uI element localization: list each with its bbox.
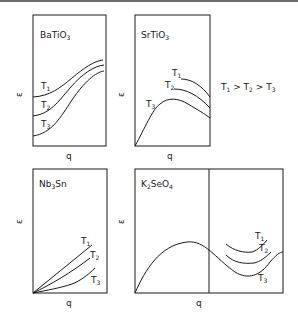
x-axis-label: q: [66, 298, 72, 308]
label-t3: T3: [257, 273, 268, 284]
panel-title: K2SeO4: [141, 179, 173, 190]
x-axis-label: q: [196, 298, 202, 308]
curve-t2: [33, 258, 90, 293]
y-axis-label: ε: [14, 219, 24, 224]
label-t3: T3: [90, 275, 101, 286]
label-t2: T2: [89, 250, 100, 261]
x-axis-label: q: [66, 151, 72, 161]
panel-srtio3: SrTiO3 T1 T2 T3 ε q: [116, 15, 210, 161]
y-axis-label: ε: [116, 92, 126, 97]
curve-t3: [33, 268, 95, 293]
curve-t2: [174, 89, 210, 108]
label-t3: T3: [145, 99, 156, 110]
y-axis-label: ε: [14, 92, 24, 97]
curve-t1: [33, 60, 103, 97]
label-t1: T1: [171, 68, 182, 79]
panel-nb3sn: Nb3Sn T1 T2 T3 ε q: [14, 169, 107, 308]
label-t2: T2: [164, 80, 175, 91]
panel-title: Nb3Sn: [39, 179, 67, 190]
phonon-dispersion-diagram: BaTiO3 T1 T2 T3 ε q SrTiO3 T1 T2 T3 ε q …: [0, 0, 298, 319]
curve-t1: [33, 245, 92, 293]
label-t3: T3: [40, 119, 51, 130]
panel-title: BaTiO3: [40, 30, 71, 41]
label-t1: T1: [254, 231, 265, 242]
label-t2: T2: [40, 100, 51, 111]
label-t2: T2: [258, 243, 269, 254]
y-axis-label: ε: [116, 219, 126, 224]
label-t1: T1: [80, 236, 91, 247]
panel-title: SrTiO3: [141, 30, 169, 41]
panel-batio3: BaTiO3 T1 T2 T3 ε q: [14, 15, 106, 161]
panel-k2seo4: K2SeO4 T1 T2 T3 ε q: [116, 169, 283, 308]
curve-t1: [181, 79, 210, 97]
temperature-relation: T1 > T2 > T3: [220, 82, 276, 93]
x-axis-label: q: [167, 151, 173, 161]
label-t1: T1: [40, 81, 51, 92]
